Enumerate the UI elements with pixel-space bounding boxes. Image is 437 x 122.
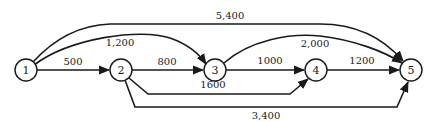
edge-label-4-5: 1200 <box>349 55 374 66</box>
edge-label-2-3: 800 <box>157 56 176 67</box>
edge-2-5: 3,400 <box>125 80 408 121</box>
node-label-1: 1 <box>23 64 30 77</box>
node-1: 1 <box>15 59 37 81</box>
node-label-3: 3 <box>212 64 219 77</box>
edge-label-1-5: 5,400 <box>216 10 245 21</box>
edge-4-5: 1200 <box>327 55 399 70</box>
edge-3-4: 1000 <box>226 55 304 70</box>
edge-label-3-4: 1000 <box>257 55 282 66</box>
node-label-2: 2 <box>118 64 125 77</box>
network-diagram: 5,400 1,200 2,000 500 800 1000 1200 1600… <box>0 0 437 122</box>
edge-label-3-5: 2,000 <box>301 38 330 49</box>
node-label-4: 4 <box>313 64 320 77</box>
node-label-5: 5 <box>408 64 415 77</box>
node-2: 2 <box>110 59 132 81</box>
edge-label-1-3: 1,200 <box>106 37 135 48</box>
node-4: 4 <box>305 59 327 81</box>
edge-1-2: 500 <box>37 56 109 70</box>
edge-label-2-5: 3,400 <box>252 110 281 121</box>
edge-label-1-2: 500 <box>63 56 82 67</box>
edge-1-5: 5,400 <box>33 10 403 62</box>
edge-2-3: 800 <box>132 56 203 70</box>
node-3: 3 <box>204 59 226 81</box>
node-5: 5 <box>400 59 422 81</box>
